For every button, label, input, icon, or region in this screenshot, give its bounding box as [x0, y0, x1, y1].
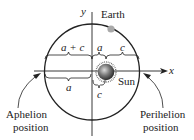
distance-c-bottom-label: c: [97, 89, 102, 100]
distance-a-bottom-label: a: [66, 82, 72, 93]
aphelion-arrow: [18, 76, 36, 108]
y-axis-label: y: [81, 6, 86, 17]
brace-a-top: [92, 52, 106, 59]
distance-a-plus-c-label: a + c: [61, 42, 84, 53]
sun-icon: [96, 62, 116, 82]
aphelion-label-line2: position: [13, 122, 48, 133]
perihelion-label-line2: position: [143, 122, 178, 133]
brace-a-plus-c: [45, 52, 92, 59]
aphelion-arrowhead-icon: [33, 73, 41, 79]
aphelion-label-line1: Aphelion: [6, 109, 47, 120]
sun-label: Sun: [118, 76, 135, 87]
earth-icon: [107, 25, 114, 32]
perihelion-arrow: [148, 77, 163, 108]
x-axis-label: x: [169, 65, 174, 76]
distance-a-top-label: a: [97, 42, 103, 53]
earth-label: Earth: [101, 9, 125, 20]
brace-c-top: [106, 52, 139, 59]
brace-a-bottom: [45, 74, 91, 81]
perihelion-label-line1: Perihelion: [140, 109, 185, 120]
distance-c-top-label: c: [120, 42, 125, 53]
